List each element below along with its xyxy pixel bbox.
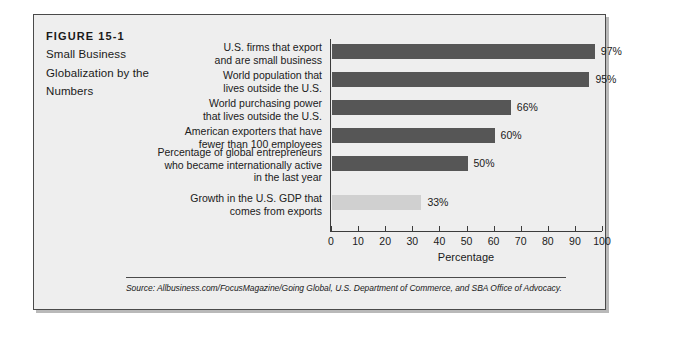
category-label: World population that lives outside the … bbox=[62, 69, 322, 94]
x-axis-tick-label: 80 bbox=[533, 235, 563, 247]
x-axis-tick-label: 90 bbox=[560, 235, 590, 247]
bar-chart-plot-area: Percentage U.S. firms that export and ar… bbox=[34, 15, 607, 311]
x-axis-tick-label: 30 bbox=[397, 235, 427, 247]
x-axis-tick-label: 0 bbox=[316, 235, 346, 247]
bar bbox=[332, 100, 511, 115]
bar-value-label: 66% bbox=[517, 100, 538, 115]
source-note: Source: Allbusiness.com/FocusMagazine/Go… bbox=[126, 282, 586, 294]
x-axis-tick-label: 100 bbox=[587, 235, 617, 247]
bar bbox=[332, 72, 589, 87]
x-axis-title: Percentage bbox=[330, 251, 602, 263]
category-label: Percentage of global entrepreneurs who b… bbox=[62, 146, 322, 184]
category-label: Growth in the U.S. GDP that comes from e… bbox=[62, 192, 322, 217]
bar bbox=[332, 128, 495, 143]
category-label: World purchasing power that lives outsid… bbox=[62, 97, 322, 122]
bar-value-label: 60% bbox=[501, 128, 522, 143]
bar-value-label: 50% bbox=[474, 156, 495, 171]
x-axis-tick bbox=[467, 226, 468, 231]
x-axis-tick bbox=[331, 226, 332, 231]
x-axis-tick-label: 50 bbox=[452, 235, 482, 247]
x-axis-tick bbox=[385, 226, 386, 231]
x-axis-tick bbox=[358, 226, 359, 231]
x-axis-tick-label: 40 bbox=[424, 235, 454, 247]
bar-value-label: 97% bbox=[601, 44, 622, 59]
x-axis-tick-label: 60 bbox=[479, 235, 509, 247]
category-label: U.S. firms that export and are small bus… bbox=[62, 41, 322, 66]
bar bbox=[332, 195, 421, 210]
x-axis-tick bbox=[602, 226, 603, 231]
x-axis-tick-label: 70 bbox=[506, 235, 536, 247]
value-axis-line bbox=[330, 39, 331, 232]
x-axis-tick bbox=[548, 226, 549, 231]
source-divider bbox=[126, 277, 566, 278]
bar bbox=[332, 44, 595, 59]
x-axis-tick bbox=[412, 226, 413, 231]
x-axis-tick-label: 10 bbox=[343, 235, 373, 247]
figure-panel: FIGURE 15-1 Small Business Globalization… bbox=[33, 14, 606, 310]
x-axis-tick bbox=[521, 226, 522, 231]
x-axis-tick-label: 20 bbox=[370, 235, 400, 247]
bar bbox=[332, 156, 468, 171]
bar-value-label: 33% bbox=[427, 195, 448, 210]
x-axis-tick bbox=[494, 226, 495, 231]
x-axis-tick bbox=[575, 226, 576, 231]
bar-value-label: 95% bbox=[595, 72, 616, 87]
category-axis-line bbox=[330, 231, 602, 232]
x-axis-tick bbox=[439, 226, 440, 231]
